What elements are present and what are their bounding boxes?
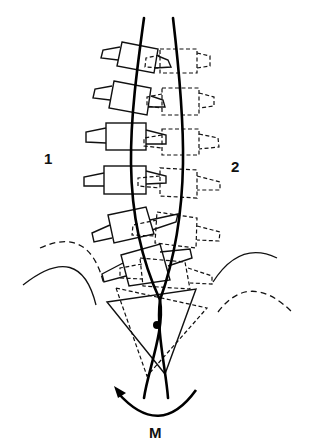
right-arc-dashed [218,291,293,313]
vertebra-1-1 [101,42,171,73]
left-arc-solid [23,267,96,305]
vertebrae-config-2 [116,49,220,376]
moment-arrow [118,390,196,416]
diagram-canvas [0,0,312,446]
spine-axis-2 [159,18,183,398]
vertebra-1-2 [93,81,165,115]
spine-diagram: 1 2 M [0,0,312,446]
left-arc-dashed [40,242,104,285]
vertebra-1-4 [84,166,166,194]
moment-arrowhead-icon [114,386,126,398]
config-1-label: 1 [44,151,52,166]
config-2-label: 2 [231,159,239,174]
pivot-point [153,321,161,329]
moment-label: M [149,425,162,440]
right-arc-solid [213,253,277,282]
